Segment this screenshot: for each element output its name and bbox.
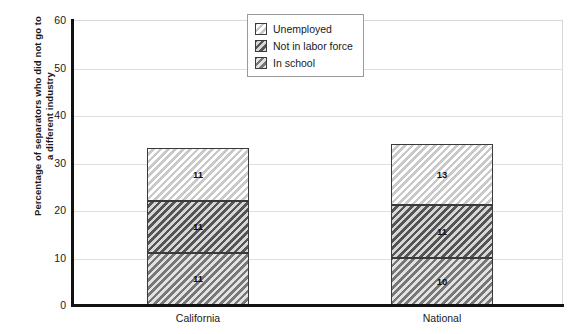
bar-national[interactable]: 101113: [391, 20, 493, 305]
bar-segment[interactable]: 10: [391, 258, 493, 306]
legend-swatch-icon: [255, 57, 267, 69]
legend-item-label: Unemployed: [273, 23, 332, 35]
legend-item-label: Not in labor force: [273, 40, 353, 52]
legend-swatch-icon: [255, 23, 267, 35]
x-axis-tick-label: California: [138, 312, 258, 324]
x-axis-line: [71, 304, 564, 307]
y-axis-tick-label: 40: [26, 109, 66, 121]
y-axis-tick-label: 50: [26, 62, 66, 74]
y-axis-title-line-2: a different industry: [44, 0, 56, 256]
chart-container: Percentage of separators who did not go …: [0, 0, 573, 334]
legend-item[interactable]: In school: [255, 54, 353, 71]
legend-item-label: In school: [273, 57, 315, 69]
bar-segment-value-label: 11: [193, 221, 203, 232]
bar-segment-value-label: 13: [437, 169, 448, 180]
legend-swatch-icon: [255, 40, 267, 52]
y-axis-tick-label: 30: [26, 157, 66, 169]
y-axis-tick-label: 10: [26, 252, 66, 264]
x-axis-tick-label: National: [382, 312, 502, 324]
bar-segment[interactable]: 13: [391, 144, 493, 206]
bar-segment[interactable]: 11: [147, 201, 249, 253]
bar-california[interactable]: 111111: [147, 20, 249, 305]
y-axis-tick-label: 60: [26, 14, 66, 26]
bar-segment-value-label: 11: [193, 273, 203, 284]
y-axis-tick-label: 20: [26, 204, 66, 216]
bar-segment-value-label: 11: [437, 226, 447, 237]
bar-segment-value-label: 11: [193, 169, 203, 180]
legend-item[interactable]: Not in labor force: [255, 37, 353, 54]
bar-segment[interactable]: 11: [147, 148, 249, 200]
legend-item[interactable]: Unemployed: [255, 20, 353, 37]
y-axis-tick-label: 0: [26, 299, 66, 311]
chart-legend: UnemployedNot in labor forceIn school: [247, 14, 364, 77]
y-axis-line: [71, 19, 74, 306]
bar-segment-value-label: 10: [437, 276, 448, 287]
bar-segment[interactable]: 11: [391, 205, 493, 257]
bar-segment[interactable]: 11: [147, 253, 249, 305]
y-axis-title: Percentage of separators who did not go …: [32, 0, 56, 256]
